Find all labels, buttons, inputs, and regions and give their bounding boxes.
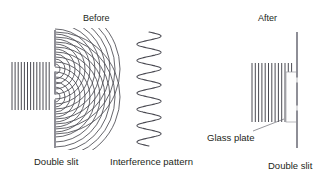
after-panel-graphic <box>0 0 326 172</box>
before-double-slit-caption: Double slit <box>34 157 78 167</box>
after-double-slit-caption: Double slit <box>268 161 312 171</box>
glass-plate-rect <box>286 72 297 122</box>
after-barrier-segment <box>296 83 298 106</box>
before-panel-title: Before <box>83 14 110 23</box>
after-barrier <box>296 32 298 148</box>
after-barrier-segment <box>296 111 298 149</box>
after-barrier-segment <box>296 32 298 78</box>
after-panel-title: After <box>258 14 277 23</box>
interference-pattern-caption: Interference pattern <box>110 157 193 167</box>
figure-canvas: Before After Double slit Interference pa… <box>0 0 326 172</box>
glass-plate-caption: Glass plate <box>207 133 255 143</box>
